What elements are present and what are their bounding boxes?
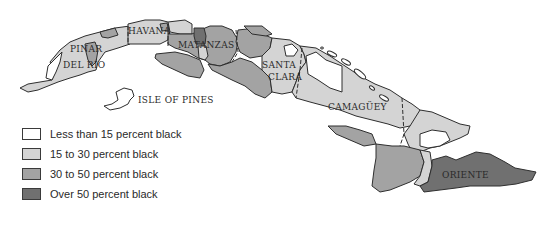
label-clara: CLARA [268,72,302,82]
legend-swatch [22,148,41,160]
label-del-rio: DEL RÍO [63,59,105,70]
label-matanzas: MATANZAS [178,40,234,50]
isle-of-pines-shape [104,88,134,110]
label-camaguey: CAMAGÜEY [328,101,388,112]
legend-label: 30 to 50 percent black [50,168,158,180]
label-santa: SANTA [262,60,296,70]
legend-item: 15 to 30 percent black [22,144,181,164]
legend-item: Over 50 percent black [22,184,181,204]
region-camaguey-mid [328,126,376,146]
legend-label: Less than 15 percent black [50,128,181,140]
label-havana: HAVANA [128,26,171,36]
legend-swatch [22,168,41,180]
legend-item: 30 to 50 percent black [22,164,181,184]
cay [321,47,324,49]
legend-label: Over 50 percent black [50,188,158,200]
label-pinar: PINAR [70,44,102,54]
legend-swatch [22,188,41,200]
label-oriente: ORIENTE [442,170,489,180]
region-oriente-white [420,130,450,148]
region-havana-east [168,20,192,34]
label-isle-of-pines: ISLE OF PINES [138,95,214,105]
legend: Less than 15 percent black 15 to 30 perc… [22,124,181,204]
legend-label: 15 to 30 percent black [50,148,158,160]
legend-swatch [22,128,41,140]
legend-item: Less than 15 percent black [22,124,181,144]
